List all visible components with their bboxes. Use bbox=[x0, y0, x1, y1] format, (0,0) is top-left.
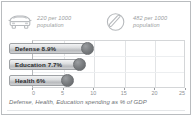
bar-cap-health bbox=[61, 74, 74, 87]
x-tick-label-15: 15 bbox=[121, 90, 127, 96]
car-icon bbox=[7, 11, 33, 33]
stat-cars: 220 per 1000population bbox=[7, 11, 103, 33]
bar-health[interactable]: Health 6% bbox=[9, 75, 67, 86]
bar-education[interactable]: Education 7.7% bbox=[9, 59, 79, 70]
stat-cars-text: 220 per 1000population bbox=[37, 15, 71, 28]
mobile-phone-circle-icon bbox=[103, 11, 129, 33]
bar-label-education: Education 7.7% bbox=[15, 61, 62, 68]
stat-phones-text: 482 per 1000population bbox=[133, 15, 167, 28]
stat-phones: 482 per 1000population bbox=[103, 11, 189, 33]
bar-defense[interactable]: Defense 8.9% bbox=[9, 43, 87, 54]
stats-row: 220 per 1000population 482 per 1000popul… bbox=[7, 7, 189, 37]
x-tick-label-10: 10 bbox=[90, 90, 96, 96]
infographic-panel: 220 per 1000population 482 per 1000popul… bbox=[1, 1, 191, 115]
x-tick-label-20: 20 bbox=[151, 90, 157, 96]
x-tick-label-0: 0 bbox=[32, 90, 35, 96]
footer-divider bbox=[7, 110, 185, 111]
x-tick-label-25: 25 bbox=[179, 90, 185, 96]
bars-group: Defense 8.9% Education 7.7% Health 6% bbox=[9, 40, 185, 88]
bar-label-defense: Defense 8.9% bbox=[15, 45, 56, 52]
chart-caption: Defense, Health, Education spending as %… bbox=[9, 99, 189, 105]
bar-label-health: Health 6% bbox=[15, 77, 45, 84]
bar-chart: Defense 8.9% Education 7.7% Health 6% 0 … bbox=[9, 40, 185, 88]
x-axis: 0 5 10 15 20 25 bbox=[32, 88, 185, 97]
bar-cap-education bbox=[73, 58, 86, 71]
bar-cap-defense bbox=[81, 42, 94, 55]
x-tick-label-5: 5 bbox=[61, 90, 64, 96]
